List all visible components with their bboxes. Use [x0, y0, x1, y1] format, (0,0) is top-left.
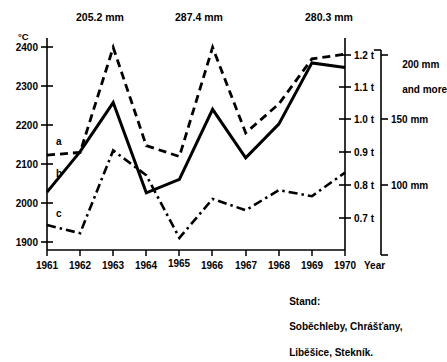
x-axis-tick-1968: 1968: [262, 260, 296, 271]
annotation-1966-rainfall: 287.4 mm: [175, 12, 223, 24]
x-axis-tick-1965: 1965: [162, 258, 196, 269]
left-axis-tick-2000: 2000: [2, 198, 38, 209]
left-axis-tick-2200: 2200: [2, 120, 38, 131]
right-axis-tick-1_0t: 1.0 t: [354, 114, 374, 125]
left-axis-tick-2100: 2100: [2, 159, 38, 170]
x-axis-tick-1963: 1963: [96, 260, 130, 271]
annotation-1970-rainfall: 280.3 mm: [305, 12, 353, 24]
series-line-c: [47, 150, 345, 238]
left-axis-tick-2400: 2400: [2, 42, 38, 53]
rainfall-200-line1: 200 mm: [402, 59, 439, 70]
caption-line-3: Liběšice, Stekník.: [289, 347, 373, 358]
right-axis-tick-0_7t: 0.7 t: [354, 213, 374, 224]
rainfall-axis-tick-150mm: 150 mm: [391, 114, 428, 126]
caption-line-2: Soběchleby, Chrášťany,: [289, 321, 402, 332]
right-axis-tick-0_9t: 0.9 t: [354, 147, 374, 158]
right-axis-tick-1_2t: 1.2 t: [354, 50, 374, 61]
x-axis-tick-1970: 1970: [328, 260, 362, 271]
rainfall-200-line2: and more: [402, 84, 447, 95]
left-axis-tick-2300: 2300: [2, 81, 38, 92]
x-axis-tick-1967: 1967: [229, 260, 263, 271]
series-line-b: [47, 63, 345, 193]
x-axis-unit-label: Year: [364, 260, 385, 271]
rainfall-axis-tick-200mm: 200 mm and more: [391, 47, 447, 108]
caption-line-1: Stand:: [289, 296, 320, 307]
x-axis-tick-1969: 1969: [295, 260, 329, 271]
annotation-1963-rainfall: 205.2 mm: [76, 12, 124, 24]
x-axis-tick-1962: 1962: [63, 260, 97, 271]
x-axis-tick-1964: 1964: [129, 260, 163, 271]
rainfall-axis-tick-100mm: 100 mm: [391, 180, 428, 192]
right-axis-tick-0_8t: 0.8 t: [354, 180, 374, 191]
bottom-axis-ticks: [47, 250, 345, 256]
right-axis-tick-1_1t: 1.1 t: [354, 82, 374, 93]
left-axis-tick-1900: 1900: [2, 237, 38, 248]
x-axis-tick-1961: 1961: [30, 260, 64, 271]
series-label-a: a: [56, 136, 62, 147]
series-label-b: b: [56, 168, 62, 179]
chart-caption: Stand: Soběchleby, Chrášťany, Liběšice, …: [278, 283, 402, 362]
x-axis-tick-1966: 1966: [195, 260, 229, 271]
series-label-c: c: [56, 208, 62, 219]
series-line-a: [47, 47, 345, 156]
